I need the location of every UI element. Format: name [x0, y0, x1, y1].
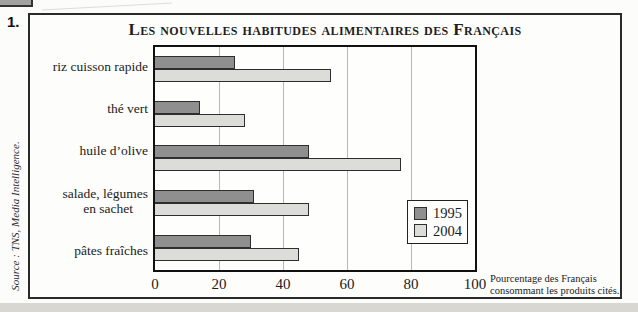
axis-note-line2: consommant les produits cités.: [490, 285, 622, 297]
category-label-line: thé vert: [34, 101, 148, 116]
scan-corner-artifact: [0, 0, 33, 7]
bar-group-2: [155, 101, 475, 127]
bar-1995-5: [155, 235, 251, 248]
x-tick-100: 100: [464, 276, 487, 293]
bar-1995-2: [155, 101, 200, 114]
bar-group-3: [155, 145, 475, 171]
category-label-line: huile d’olive: [34, 143, 148, 158]
scan-artifact-line: [42, 3, 172, 11]
axis-note: Pourcentage des Français consommant les …: [490, 273, 622, 296]
x-tick-60: 60: [340, 276, 355, 293]
bar-2004-4: [155, 203, 309, 216]
legend: 19952004: [407, 200, 468, 244]
category-label-line: salade, légumes: [34, 186, 148, 201]
category-label-1: riz cuisson rapide: [34, 59, 148, 74]
scanned-page: 1. Source : TNS, Media Intelligence. Les…: [0, 0, 638, 312]
legend-row-1995: 1995: [414, 206, 467, 221]
legend-swatch-2004: [414, 224, 427, 237]
category-label-line: pâtes fraîches: [34, 243, 148, 258]
legend-label-2004: 2004: [433, 224, 462, 239]
x-tick-80: 80: [404, 276, 419, 293]
bar-2004-2: [155, 114, 245, 127]
category-label-5: pâtes fraîches: [34, 243, 148, 258]
bar-1995-3: [155, 145, 309, 158]
category-label-4: salade, légumesen sachet: [34, 186, 148, 216]
category-label-2: thé vert: [34, 101, 148, 116]
bar-1995-4: [155, 190, 254, 203]
category-label-3: huile d’olive: [34, 143, 148, 158]
category-label-line: en sachet: [34, 201, 148, 216]
plot-area: 19952004: [153, 45, 477, 272]
exercise-number: 1.: [7, 13, 20, 30]
x-tick-40: 40: [276, 276, 291, 293]
bar-2004-1: [155, 69, 331, 82]
x-axis-ticks: 020406080100: [155, 276, 475, 292]
legend-label-1995: 1995: [433, 206, 462, 221]
bar-1995-1: [155, 56, 235, 69]
bar-2004-5: [155, 248, 299, 261]
category-labels: riz cuisson rapidethé verthuile d’olives…: [34, 45, 148, 272]
page-edge-strip: [0, 303, 638, 312]
legend-swatch-1995: [414, 207, 427, 220]
category-label-line: riz cuisson rapide: [34, 59, 148, 74]
bar-2004-3: [155, 158, 401, 171]
legend-row-2004: 2004: [414, 224, 467, 239]
chart-title: Les nouvelles habitudes alimentaires des…: [28, 20, 622, 40]
bar-group-1: [155, 56, 475, 82]
x-tick-0: 0: [151, 276, 159, 293]
x-tick-20: 20: [212, 276, 227, 293]
source-credit: Source : TNS, Media Intelligence.: [9, 131, 21, 301]
axis-note-line1: Pourcentage des Français: [490, 273, 622, 285]
